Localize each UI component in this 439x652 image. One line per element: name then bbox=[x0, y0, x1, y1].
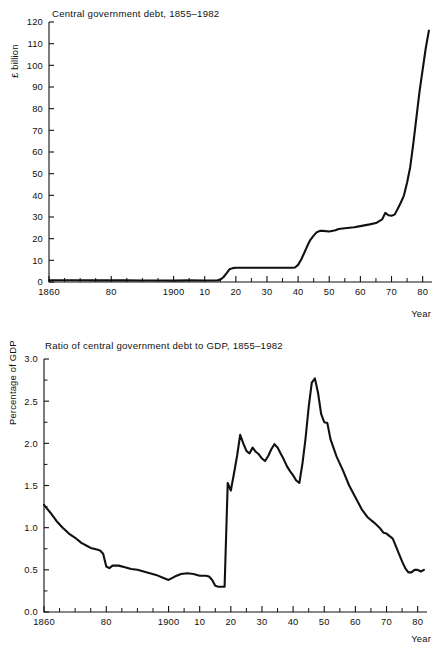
y-tick-label: 40 bbox=[32, 190, 43, 201]
x-tick-label: 1860 bbox=[33, 616, 55, 627]
y-tick-label: 60 bbox=[32, 146, 43, 157]
x-tick-label: 80 bbox=[417, 286, 428, 297]
ratio-axes bbox=[44, 359, 427, 612]
chart-ratio-debt-to-gdp: Ratio of central government debt to GDP,… bbox=[0, 330, 439, 652]
y-tick-label: 90 bbox=[32, 81, 43, 92]
y-tick-label: 2.5 bbox=[24, 396, 38, 407]
y-tick-label: 1.5 bbox=[24, 480, 38, 491]
y-tick-label: 70 bbox=[32, 125, 43, 136]
y-tick-label: 50 bbox=[32, 168, 43, 179]
debt-x-axis-title: Year bbox=[411, 308, 431, 319]
y-tick-label: 2.0 bbox=[24, 438, 38, 449]
y-tick-label: 120 bbox=[27, 16, 43, 27]
x-tick-label: 40 bbox=[293, 286, 304, 297]
y-tick-label: 100 bbox=[27, 60, 43, 71]
ratio-y-axis-title: Percentage of GDP bbox=[7, 340, 18, 425]
x-tick-label: 20 bbox=[230, 286, 241, 297]
y-tick-label: 80 bbox=[32, 103, 43, 114]
x-tick-label: 80 bbox=[106, 286, 117, 297]
debt-axes bbox=[49, 22, 432, 282]
x-tick-label: 70 bbox=[381, 616, 392, 627]
y-tick-label: 0.5 bbox=[24, 564, 38, 575]
debt-series-line bbox=[49, 31, 429, 281]
x-tick-label: 30 bbox=[257, 616, 268, 627]
chart-central-government-debt: Central government debt, 1855–1982 £ bil… bbox=[0, 0, 439, 330]
y-tick-label: 30 bbox=[32, 211, 43, 222]
ratio-series-line bbox=[44, 378, 424, 586]
x-tick-label: 80 bbox=[101, 616, 112, 627]
x-tick-label: 1900 bbox=[163, 286, 185, 297]
debt-y-axis-title: £ billion bbox=[9, 44, 20, 78]
x-tick-label: 50 bbox=[324, 286, 335, 297]
x-tick-label: 60 bbox=[350, 616, 361, 627]
y-tick-label: 10 bbox=[32, 255, 43, 266]
x-tick-label: 10 bbox=[194, 616, 205, 627]
y-tick-label: 20 bbox=[32, 233, 43, 244]
x-tick-label: 80 bbox=[412, 616, 423, 627]
y-tick-label: 110 bbox=[27, 38, 43, 49]
debt-tick-labels: 0102030405060708090100110120186080190010… bbox=[27, 16, 428, 297]
x-tick-label: 50 bbox=[319, 616, 330, 627]
ratio-chart-title: Ratio of central government debt to GDP,… bbox=[45, 340, 283, 351]
x-tick-label: 70 bbox=[386, 286, 397, 297]
y-tick-label: 1.0 bbox=[24, 522, 38, 533]
x-tick-label: 40 bbox=[288, 616, 299, 627]
ratio-chart-svg: Ratio of central government debt to GDP,… bbox=[0, 330, 439, 652]
x-tick-label: 1860 bbox=[38, 286, 60, 297]
debt-chart-svg: Central government debt, 1855–1982 £ bil… bbox=[0, 0, 439, 330]
ratio-x-axis-title: Year bbox=[411, 633, 431, 644]
x-tick-label: 10 bbox=[199, 286, 210, 297]
y-tick-label: 3.0 bbox=[24, 353, 38, 364]
x-tick-label: 60 bbox=[355, 286, 366, 297]
debt-chart-title: Central government debt, 1855–1982 bbox=[52, 8, 219, 19]
x-tick-label: 20 bbox=[225, 616, 236, 627]
x-tick-label: 30 bbox=[262, 286, 273, 297]
x-tick-label: 1900 bbox=[158, 616, 180, 627]
